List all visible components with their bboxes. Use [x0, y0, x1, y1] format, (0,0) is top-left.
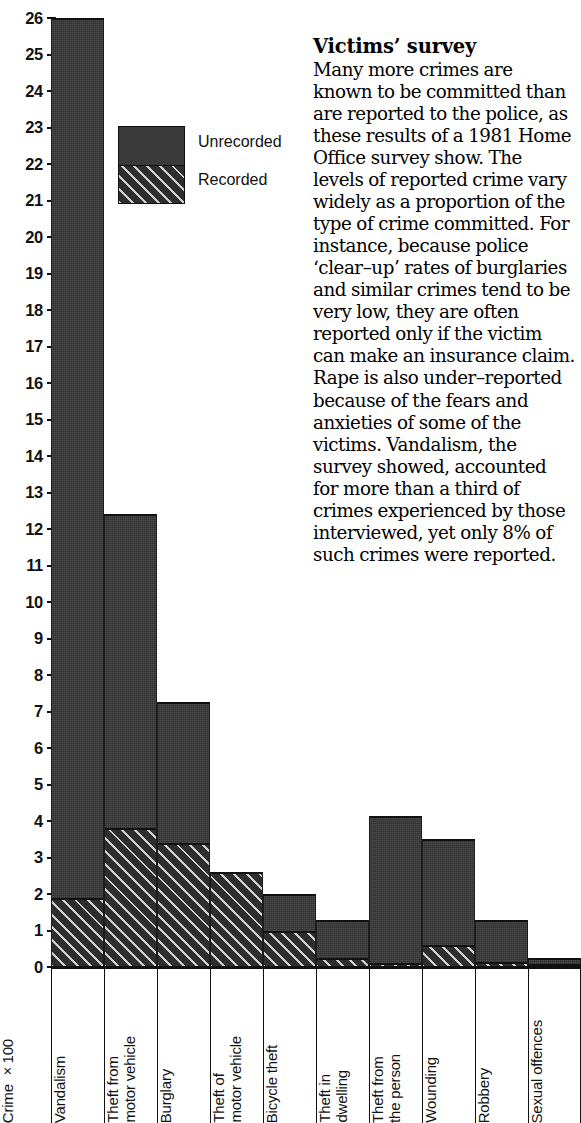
- y-axis-tick: 16: [0, 375, 56, 391]
- bar: [316, 920, 369, 967]
- x-axis-category-label: Theft in dwelling: [317, 1066, 357, 1123]
- x-axis-category: Sexual offences: [528, 969, 581, 1123]
- y-axis-tick: 13: [0, 485, 56, 501]
- bar: [475, 920, 528, 967]
- x-axis-category: Vandalism: [51, 969, 104, 1123]
- y-axis-tick: 3: [0, 850, 56, 866]
- bar: [210, 872, 263, 967]
- bar-segment-recorded: [423, 945, 474, 967]
- y-axis-tick: 8: [0, 667, 56, 683]
- y-axis-tick: 26: [0, 10, 56, 26]
- y-axis-tick-label: 26: [25, 10, 43, 27]
- y-axis-tick-label: 5: [34, 776, 43, 793]
- article-block: Victims’ survey Many more crimes are kno…: [313, 36, 575, 566]
- x-axis-category: Theft from the person: [369, 969, 422, 1123]
- y-axis-tick: 4: [0, 813, 56, 829]
- bar-segment-recorded: [211, 872, 262, 967]
- legend-swatch: [118, 126, 185, 204]
- x-axis-category-label: Wounding: [423, 1053, 446, 1123]
- y-axis-tick: 20: [0, 229, 56, 245]
- legend-swatch-recorded: [119, 165, 184, 203]
- x-axis-category-label: Robbery: [476, 1064, 499, 1123]
- bar-segment-recorded: [105, 828, 156, 967]
- y-axis-tick-label: 12: [25, 521, 43, 538]
- bar: [369, 816, 422, 967]
- bar: [157, 702, 210, 967]
- x-axis-category: Bicycle theft: [263, 969, 316, 1123]
- y-axis-tick-label: 14: [25, 448, 43, 465]
- x-axis-category: Robbery: [475, 969, 528, 1123]
- y-axis-tick: 17: [0, 339, 56, 355]
- x-axis-category: Theft in dwelling: [316, 969, 369, 1123]
- x-axis-category: Theft from motor vehicle: [104, 969, 157, 1123]
- y-axis-tick-label: 18: [25, 302, 43, 319]
- y-axis-tick: 25: [0, 47, 56, 63]
- y-axis-tick-label: 19: [25, 265, 43, 282]
- y-axis-tick-label: 13: [25, 484, 43, 501]
- bar: [422, 839, 475, 967]
- y-axis-tick: 11: [0, 558, 56, 574]
- bar-segment-recorded: [264, 931, 315, 968]
- y-axis-tick: 9: [0, 631, 56, 647]
- y-axis-tick: 7: [0, 704, 56, 720]
- x-axis-category-label: Theft from motor vehicle: [105, 1032, 145, 1123]
- y-axis-tick: 24: [0, 83, 56, 99]
- y-axis-tick-label: 15: [25, 411, 43, 428]
- bar-segment-recorded: [158, 843, 209, 967]
- bar: [104, 514, 157, 967]
- legend-label-recorded: Recorded: [198, 171, 267, 189]
- y-axis-tick-label: 10: [25, 594, 43, 611]
- y-axis-tick-label: 24: [25, 83, 43, 100]
- y-axis-caption: Crime ×100: [0, 1035, 23, 1123]
- x-axis-category: Wounding: [422, 969, 475, 1123]
- x-axis-category-label: Theft from the person: [370, 1050, 410, 1123]
- y-axis-tick-label: 17: [25, 338, 43, 355]
- y-axis-tick: 10: [0, 594, 56, 610]
- y-axis-tick-label: 21: [25, 192, 43, 209]
- y-axis-tick-label: 16: [25, 375, 43, 392]
- y-axis-tick-label: 7: [34, 703, 43, 720]
- article-heading: Victims’ survey: [313, 36, 575, 58]
- y-axis-tick-label: 9: [34, 630, 43, 647]
- x-axis-category-label: Bicycle theft: [264, 1041, 287, 1123]
- legend-swatch-unrecorded: [119, 127, 184, 165]
- y-axis-tick-label: 1: [34, 922, 43, 939]
- y-axis-tick-label: 23: [25, 119, 43, 136]
- y-axis-tick: 23: [0, 120, 56, 136]
- y-axis-tick-label: 4: [34, 813, 43, 830]
- crime-survey-figure: 2625242322212019181716151413121110987654…: [0, 0, 581, 1123]
- y-axis-tick: 19: [0, 266, 56, 282]
- y-axis-tick: 14: [0, 448, 56, 464]
- y-axis-tick-label: 2: [34, 886, 43, 903]
- y-axis-tick: 12: [0, 521, 56, 537]
- x-axis-category-label: Theft of motor vehicle: [211, 1032, 251, 1123]
- bar-texture: [52, 20, 103, 967]
- y-axis-tick-label: 6: [34, 740, 43, 757]
- y-axis-tick-label: 22: [25, 156, 43, 173]
- y-axis-tick-label: 11: [26, 557, 43, 574]
- y-axis-tick: 2: [0, 886, 56, 902]
- bar-texture: [370, 818, 421, 967]
- x-axis-category: Burglary: [157, 969, 210, 1123]
- y-axis-tick-label: 3: [34, 849, 43, 866]
- x-axis-category: Theft of motor vehicle: [210, 969, 263, 1123]
- x-axis-category-label: Sexual offences: [529, 1016, 552, 1123]
- y-axis-tick: 15: [0, 412, 56, 428]
- article-body: Many more crimes are known to be committ…: [313, 59, 575, 566]
- y-axis: 2625242322212019181716151413121110987654…: [0, 0, 56, 985]
- y-axis-tick: 21: [0, 193, 56, 209]
- y-axis-caption-cell: Crime ×100: [0, 969, 51, 1123]
- legend-label-unrecorded: Unrecorded: [198, 133, 282, 151]
- x-axis-category-label: Burglary: [158, 1065, 181, 1123]
- bar: [51, 18, 104, 967]
- y-axis-tick: 5: [0, 777, 56, 793]
- x-axis-labels: Crime ×100 VandalismTheft from motor veh…: [0, 969, 581, 1123]
- y-axis-tick-label: 20: [25, 229, 43, 246]
- bar: [263, 894, 316, 967]
- chart-legend: Unrecorded Recorded: [118, 126, 298, 204]
- bar-texture: [476, 922, 527, 967]
- y-axis-tick-label: 8: [34, 667, 43, 684]
- y-axis-tick: 22: [0, 156, 56, 172]
- x-axis-category-label: Vandalism: [52, 1052, 75, 1123]
- y-axis-tick: 18: [0, 302, 56, 318]
